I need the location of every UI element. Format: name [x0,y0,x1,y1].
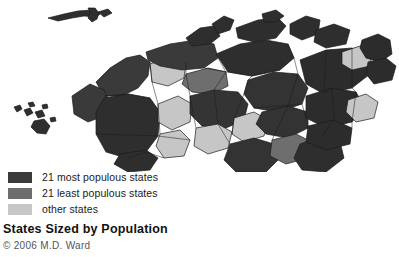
figure-credit: © 2006 M.D. Ward [3,240,303,252]
cartogram-svg [0,0,399,172]
region-great-lakes [216,40,294,76]
legend-swatch-other [8,204,32,215]
region-plains-gray [194,124,232,154]
region-southwest-gray [156,130,190,158]
legend-label-most-populous: 21 most populous states [42,172,158,183]
legend-label-other: other states [42,204,98,215]
region-top-edge-d [314,24,350,48]
cartogram-figure: 21 most populous states 21 least populou… [0,0,399,257]
legend-item-other: other states [8,202,208,217]
region-california [96,94,160,158]
region-great-basin [158,96,192,130]
map-canvas [0,0,399,172]
region-lakes-north [236,18,286,42]
legend-item-most-populous: 21 most populous states [8,170,208,185]
map-legend: 21 most populous states 21 least populou… [8,170,208,218]
figure-title: States Sized by Population [3,222,303,237]
region-hawaii-islands [14,102,56,134]
legend-swatch-most-populous [8,172,32,183]
legend-label-least-populous: 21 least populous states [42,188,158,199]
figure-caption: States Sized by Population © 2006 M.D. W… [3,222,303,252]
legend-swatch-least-populous [8,188,32,199]
region-lakes-notch [262,10,284,22]
region-northeast-edge [366,58,396,84]
legend-item-least-populous: 21 least populous states [8,186,208,201]
region-alaska-aleutians [48,8,112,22]
